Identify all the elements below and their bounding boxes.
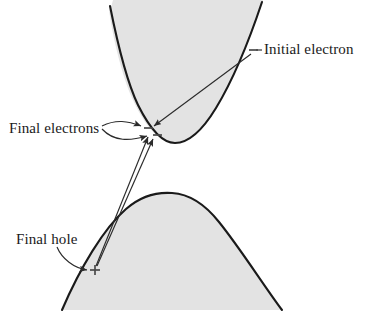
conduction-band: [109, 0, 263, 143]
leader-final-electron-2: [102, 129, 147, 139]
leader-final-electron-1: [102, 121, 141, 126]
label-final-electrons: Final electrons: [9, 120, 99, 137]
valence-band: [62, 193, 282, 310]
label-final-hole: Final hole: [16, 231, 77, 248]
band-diagram-figure: Initial electron Final electrons Final h…: [0, 0, 369, 315]
label-initial-electron: Initial electron: [264, 41, 353, 58]
